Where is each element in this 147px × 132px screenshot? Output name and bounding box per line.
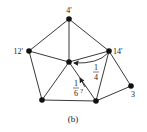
sixth-denominator: 6 — [74, 89, 78, 98]
graph-diagram: 4'12'14'3 1 4 1 6 ? (b) — [0, 0, 147, 132]
fraction-quarter: 1 4 — [93, 63, 99, 82]
node-center — [66, 59, 72, 65]
edge-top-right — [69, 19, 109, 51]
edge-right-far — [109, 51, 131, 86]
edge-left-center — [29, 51, 69, 62]
node-label-top: 4' — [66, 6, 72, 15]
edge-center-bl — [42, 62, 69, 100]
edge-bl-br — [42, 100, 96, 101]
node-bl — [39, 97, 45, 103]
quarter-numerator: 1 — [94, 63, 98, 72]
figure-caption: (b) — [68, 114, 79, 124]
node-left — [26, 48, 32, 54]
arrow-quarter — [74, 53, 108, 63]
node-br — [93, 98, 99, 104]
edge-top-left — [29, 19, 69, 51]
node-right — [106, 48, 112, 54]
arrow-sixth — [80, 78, 85, 87]
node-top — [66, 16, 72, 22]
node-label-far: 3 — [131, 90, 135, 99]
sixth-numerator: 1 — [74, 79, 78, 88]
edge-center-right — [69, 51, 109, 62]
edge-left-bl — [29, 51, 42, 100]
node-far — [128, 83, 134, 89]
quarter-denominator: 4 — [94, 73, 98, 82]
node-label-right: 14' — [113, 47, 123, 56]
edge-br-far — [96, 86, 131, 101]
node-label-left: 12' — [14, 47, 24, 56]
sixth-question-mark: ? — [80, 87, 83, 95]
fraction-sixth: 1 6 ? — [73, 79, 83, 98]
